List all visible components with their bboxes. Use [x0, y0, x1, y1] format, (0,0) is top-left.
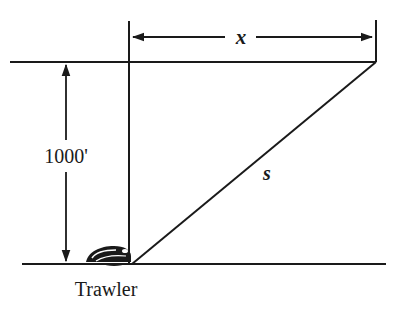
- height-label: 1000': [44, 145, 88, 167]
- trawler-label: Trawler: [75, 278, 138, 300]
- s-label: s: [262, 162, 271, 184]
- trawler-diagram: x 1000' s Trawler: [0, 0, 406, 324]
- slant-line-s: [132, 62, 376, 264]
- x-label: x: [235, 25, 247, 49]
